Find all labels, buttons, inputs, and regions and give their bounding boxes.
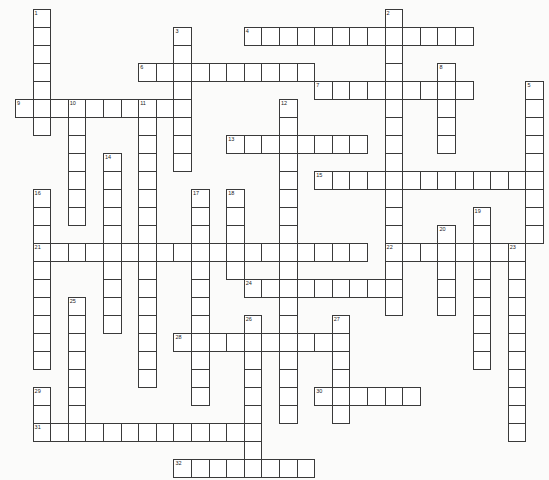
crossword-cell[interactable] — [385, 117, 404, 136]
crossword-cell[interactable] — [244, 351, 263, 370]
crossword-cell[interactable] — [173, 117, 192, 136]
crossword-cell[interactable] — [244, 459, 263, 478]
crossword-cell[interactable] — [385, 225, 404, 244]
crossword-cell[interactable] — [191, 315, 210, 334]
crossword-cell[interactable] — [402, 81, 421, 100]
crossword-cell[interactable] — [226, 423, 245, 442]
crossword-cell[interactable] — [138, 225, 157, 244]
crossword-cell[interactable] — [68, 117, 87, 136]
crossword-cell[interactable] — [279, 27, 298, 46]
crossword-cell[interactable] — [473, 279, 492, 298]
crossword-cell[interactable] — [191, 351, 210, 370]
crossword-cell[interactable] — [261, 459, 280, 478]
crossword-cell[interactable] — [385, 279, 404, 298]
crossword-cell[interactable] — [50, 423, 69, 442]
crossword-cell[interactable]: 12 — [279, 99, 298, 118]
crossword-cell[interactable] — [191, 207, 210, 226]
crossword-cell[interactable] — [508, 297, 527, 316]
crossword-cell[interactable] — [68, 189, 87, 208]
crossword-cell[interactable]: 5 — [525, 81, 544, 100]
crossword-cell[interactable] — [68, 153, 87, 172]
crossword-cell[interactable] — [244, 405, 263, 424]
crossword-cell[interactable] — [525, 189, 544, 208]
crossword-cell[interactable] — [156, 423, 175, 442]
crossword-cell[interactable] — [508, 405, 527, 424]
crossword-cell[interactable] — [314, 27, 333, 46]
crossword-cell[interactable] — [103, 279, 122, 298]
crossword-cell[interactable] — [332, 81, 351, 100]
crossword-cell[interactable] — [437, 279, 456, 298]
crossword-cell[interactable] — [68, 333, 87, 352]
crossword-cell[interactable] — [525, 225, 544, 244]
crossword-cell[interactable] — [332, 27, 351, 46]
crossword-cell[interactable]: 7 — [314, 81, 333, 100]
crossword-cell[interactable] — [244, 135, 263, 154]
crossword-cell[interactable] — [138, 297, 157, 316]
crossword-cell[interactable]: 18 — [226, 189, 245, 208]
crossword-cell[interactable] — [473, 225, 492, 244]
crossword-cell[interactable] — [156, 63, 175, 82]
crossword-cell[interactable] — [121, 243, 140, 262]
crossword-cell[interactable]: 11 — [138, 99, 157, 118]
crossword-cell[interactable] — [279, 369, 298, 388]
crossword-cell[interactable] — [33, 261, 52, 280]
crossword-cell[interactable] — [420, 27, 439, 46]
crossword-cell[interactable] — [332, 351, 351, 370]
crossword-cell[interactable] — [261, 27, 280, 46]
crossword-cell[interactable] — [385, 207, 404, 226]
crossword-cell[interactable] — [349, 279, 368, 298]
crossword-cell[interactable] — [103, 189, 122, 208]
crossword-cell[interactable] — [402, 27, 421, 46]
crossword-cell[interactable] — [367, 387, 386, 406]
crossword-cell[interactable] — [279, 153, 298, 172]
crossword-cell[interactable] — [297, 243, 316, 262]
crossword-cell[interactable] — [473, 261, 492, 280]
crossword-cell[interactable]: 3 — [173, 27, 192, 46]
crossword-cell[interactable] — [191, 63, 210, 82]
crossword-cell[interactable] — [173, 135, 192, 154]
crossword-cell[interactable] — [455, 81, 474, 100]
crossword-cell[interactable] — [473, 243, 492, 262]
crossword-cell[interactable]: 14 — [103, 153, 122, 172]
crossword-cell[interactable] — [367, 171, 386, 190]
crossword-cell[interactable] — [420, 243, 439, 262]
crossword-cell[interactable] — [385, 135, 404, 154]
crossword-cell[interactable] — [279, 261, 298, 280]
crossword-cell[interactable] — [138, 261, 157, 280]
crossword-cell[interactable] — [173, 153, 192, 172]
crossword-cell[interactable]: 25 — [68, 297, 87, 316]
crossword-cell[interactable] — [437, 81, 456, 100]
crossword-cell[interactable] — [385, 27, 404, 46]
crossword-cell[interactable] — [138, 135, 157, 154]
crossword-cell[interactable] — [508, 261, 527, 280]
crossword-cell[interactable] — [437, 171, 456, 190]
crossword-cell[interactable] — [314, 279, 333, 298]
crossword-cell[interactable] — [191, 387, 210, 406]
crossword-cell[interactable]: 19 — [473, 207, 492, 226]
crossword-cell[interactable] — [103, 99, 122, 118]
crossword-cell[interactable] — [209, 333, 228, 352]
crossword-cell[interactable] — [279, 279, 298, 298]
crossword-cell[interactable] — [209, 423, 228, 442]
crossword-cell[interactable]: 4 — [244, 27, 263, 46]
crossword-cell[interactable] — [349, 81, 368, 100]
crossword-cell[interactable] — [33, 81, 52, 100]
crossword-cell[interactable] — [279, 63, 298, 82]
crossword-cell[interactable] — [244, 333, 263, 352]
crossword-cell[interactable] — [473, 333, 492, 352]
crossword-cell[interactable] — [525, 207, 544, 226]
crossword-cell[interactable] — [191, 459, 210, 478]
crossword-cell[interactable] — [209, 63, 228, 82]
crossword-cell[interactable] — [508, 387, 527, 406]
crossword-cell[interactable] — [244, 423, 263, 442]
crossword-cell[interactable]: 13 — [226, 135, 245, 154]
crossword-cell[interactable]: 30 — [314, 387, 333, 406]
crossword-cell[interactable] — [33, 405, 52, 424]
crossword-cell[interactable] — [209, 243, 228, 262]
crossword-cell[interactable] — [508, 171, 527, 190]
crossword-cell[interactable] — [103, 171, 122, 190]
crossword-cell[interactable] — [332, 387, 351, 406]
crossword-cell[interactable] — [244, 63, 263, 82]
crossword-cell[interactable] — [279, 171, 298, 190]
crossword-cell[interactable] — [367, 279, 386, 298]
